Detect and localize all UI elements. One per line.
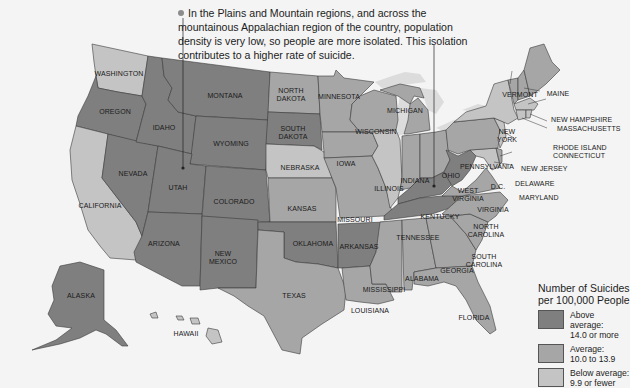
svg-text:NEBRASKA: NEBRASKA bbox=[281, 164, 320, 171]
svg-text:MICHIGAN: MICHIGAN bbox=[387, 107, 423, 114]
legend-item-average: Average: 10.0 to 13.9 bbox=[538, 344, 630, 364]
svg-text:DAKOTA: DAKOTA bbox=[277, 95, 306, 102]
svg-text:LOUISIANA: LOUISIANA bbox=[351, 307, 389, 314]
svg-text:TENNESSEE: TENNESSEE bbox=[396, 234, 440, 241]
callout-dot-kentucky bbox=[432, 184, 435, 187]
svg-text:VIRGINIA: VIRGINIA bbox=[477, 206, 509, 213]
svg-text:KENTUCKY: KENTUCKY bbox=[421, 213, 460, 220]
svg-text:ALASKA: ALASKA bbox=[67, 292, 95, 299]
svg-text:NEW HAMPSHIRE: NEW HAMPSHIRE bbox=[551, 116, 612, 123]
svg-text:YORK: YORK bbox=[497, 136, 517, 143]
svg-text:ALABAMA: ALABAMA bbox=[405, 275, 439, 282]
state-pennsylvania[interactable] bbox=[446, 118, 500, 154]
svg-text:NORTH: NORTH bbox=[278, 87, 303, 94]
legend-label-above: Above average: bbox=[570, 310, 630, 330]
legend-item-above: Above average: 14.0 or more bbox=[538, 310, 630, 340]
svg-text:CAROLINA: CAROLINA bbox=[466, 261, 503, 268]
svg-text:ARKANSAS: ARKANSAS bbox=[340, 243, 379, 250]
svg-text:D.C.: D.C. bbox=[491, 183, 505, 190]
state-maine[interactable] bbox=[524, 44, 560, 96]
state-iowa[interactable] bbox=[322, 132, 378, 158]
svg-text:MISSOURI: MISSOURI bbox=[337, 216, 372, 223]
svg-text:DELAWARE: DELAWARE bbox=[515, 180, 555, 187]
svg-text:FLORIDA: FLORIDA bbox=[458, 314, 489, 321]
state-hawaii[interactable] bbox=[150, 312, 222, 344]
svg-text:MEXICO: MEXICO bbox=[209, 258, 238, 265]
svg-text:HAWAII: HAWAII bbox=[174, 330, 199, 337]
svg-text:MAINE: MAINE bbox=[547, 90, 570, 97]
state-colorado[interactable] bbox=[202, 166, 270, 222]
svg-text:NEW: NEW bbox=[215, 250, 232, 257]
svg-text:RHODE ISLAND: RHODE ISLAND bbox=[553, 144, 607, 151]
svg-text:DAKOTA: DAKOTA bbox=[279, 133, 308, 140]
svg-text:ILLINOIS: ILLINOIS bbox=[374, 185, 404, 192]
svg-text:NEW: NEW bbox=[499, 128, 516, 135]
map-legend: Number of Suicides per 100,000 People Ab… bbox=[538, 282, 630, 388]
svg-text:MINNESOTA: MINNESOTA bbox=[318, 93, 360, 100]
svg-text:OHIO: OHIO bbox=[442, 172, 461, 179]
svg-text:PENNSYLVANIA: PENNSYLVANIA bbox=[460, 163, 514, 170]
state-montana[interactable] bbox=[162, 58, 270, 120]
legend-range-below: 9.9 or fewer bbox=[570, 378, 629, 388]
legend-item-below: Below average: 9.9 or fewer bbox=[538, 368, 630, 388]
state-kansas[interactable] bbox=[268, 178, 336, 222]
svg-text:VERMONT: VERMONT bbox=[502, 91, 538, 98]
state-rhode-island[interactable] bbox=[526, 110, 532, 118]
svg-text:WYOMING: WYOMING bbox=[213, 140, 249, 147]
legend-label-average: Average: bbox=[570, 344, 615, 354]
legend-label-below: Below average: bbox=[570, 368, 629, 378]
legend-title-line2: per 100,000 People bbox=[538, 294, 630, 306]
svg-text:SOUTH: SOUTH bbox=[281, 125, 306, 132]
svg-text:VIRGINIA: VIRGINIA bbox=[452, 195, 484, 202]
svg-text:MISSISSIPPI: MISSISSIPPI bbox=[363, 286, 406, 293]
legend-range-above: 14.0 or more bbox=[570, 330, 630, 340]
svg-text:IOWA: IOWA bbox=[337, 160, 356, 167]
svg-text:ARIZONA: ARIZONA bbox=[148, 240, 180, 247]
svg-text:NORTH: NORTH bbox=[473, 223, 498, 230]
state-alaska[interactable] bbox=[32, 262, 128, 350]
svg-text:MARYLAND: MARYLAND bbox=[519, 194, 559, 201]
svg-text:CALIFORNIA: CALIFORNIA bbox=[78, 202, 121, 209]
callout-dot-utah bbox=[181, 166, 184, 169]
bullet-icon bbox=[178, 10, 184, 16]
svg-text:MASSACHUSETTS: MASSACHUSETTS bbox=[557, 125, 621, 132]
svg-text:OKLAHOMA: OKLAHOMA bbox=[293, 240, 334, 247]
svg-text:GEORGIA: GEORGIA bbox=[440, 267, 474, 274]
svg-text:CONNECTICUT: CONNECTICUT bbox=[553, 152, 606, 159]
svg-text:OREGON: OREGON bbox=[99, 108, 131, 115]
svg-text:WASHINGTON: WASHINGTON bbox=[95, 70, 144, 77]
legend-swatch-below bbox=[538, 368, 564, 387]
svg-text:TEXAS: TEXAS bbox=[282, 292, 306, 299]
svg-text:NEVADA: NEVADA bbox=[119, 170, 148, 177]
legend-title-line1: Number of Suicides bbox=[538, 282, 630, 294]
svg-text:WISCONSIN: WISCONSIN bbox=[355, 128, 396, 135]
svg-text:UTAH: UTAH bbox=[169, 184, 188, 191]
legend-range-average: 10.0 to 13.9 bbox=[570, 354, 615, 364]
svg-text:INDIANA: INDIANA bbox=[400, 177, 429, 184]
svg-text:IDAHO: IDAHO bbox=[153, 124, 176, 131]
callout-text: In the Plains and Mountain regions, and … bbox=[178, 7, 468, 61]
svg-text:CAROLINA: CAROLINA bbox=[468, 231, 505, 238]
legend-swatch-above bbox=[538, 310, 564, 329]
state-new-york[interactable] bbox=[454, 80, 518, 124]
svg-text:KANSAS: KANSAS bbox=[288, 205, 317, 212]
svg-text:SOUTH: SOUTH bbox=[472, 253, 497, 260]
svg-text:WEST: WEST bbox=[458, 187, 479, 194]
callout-annotation: In the Plains and Mountain regions, and … bbox=[178, 6, 473, 62]
svg-text:MONTANA: MONTANA bbox=[207, 92, 242, 99]
svg-text:NEW JERSEY: NEW JERSEY bbox=[521, 165, 568, 172]
svg-text:COLORADO: COLORADO bbox=[214, 198, 255, 205]
legend-swatch-average bbox=[538, 344, 564, 363]
state-connecticut[interactable] bbox=[516, 110, 526, 120]
